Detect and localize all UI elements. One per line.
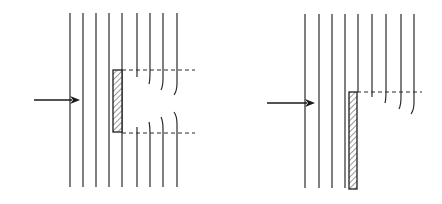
diffraction-diagram [0,0,442,204]
diffracted-wavefront [411,14,414,114]
obstacle-barrier [349,92,357,189]
diffracted-wavefront [399,14,401,109]
diffracted-wavefront [149,13,150,84]
diffracted-wavefront [174,112,177,187]
slit-obstacle-figure [34,13,195,187]
diffracted-wavefront [161,13,163,90]
diffracted-wavefront [161,117,163,187]
edge-obstacle-figure [267,14,422,189]
diffracted-wavefront [149,122,150,187]
diffracted-wavefront [174,13,177,95]
diffracted-wavefront [385,14,386,103]
obstacle-barrier [113,70,122,132]
